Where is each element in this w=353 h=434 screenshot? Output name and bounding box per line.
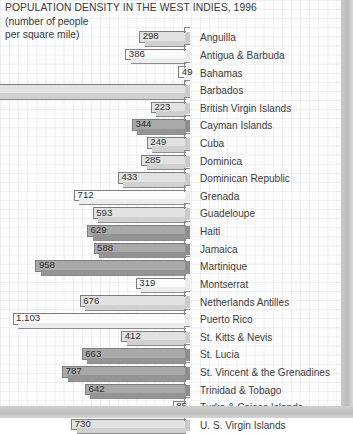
category-label: Dominican Republic	[200, 173, 290, 184]
chart-row: 629Haiti	[0, 222, 353, 240]
bar-value-label: 730	[75, 418, 91, 429]
category-label: Bahamas	[200, 68, 243, 79]
category-label: Cayman Islands	[200, 120, 272, 131]
bar-value-label: 1,103	[16, 312, 40, 323]
chart-row: 412St. Kitts & Nevis	[0, 328, 353, 346]
chart-row: Barbados	[0, 81, 353, 99]
chart-row: 663St. Lucia	[0, 345, 353, 363]
bar-value-label: 298	[143, 30, 159, 41]
chart-row: 249Cuba	[0, 134, 353, 152]
category-label: Barbados	[200, 85, 243, 96]
chart-row: 433Dominican Republic	[0, 169, 353, 187]
chart-row: 386Antigua & Barbuda	[0, 46, 353, 64]
chart-row: 787St. Vincent & the Grenadines	[0, 363, 353, 381]
bar-value-label: 49	[182, 66, 193, 77]
bar-value-label: 712	[78, 189, 94, 200]
category-label: St. Kitts & Nevis	[200, 332, 272, 343]
category-label: Netherlands Antilles	[200, 297, 289, 308]
category-label: U. S. Virgin Islands	[200, 420, 286, 431]
category-label: St. Lucia	[200, 349, 239, 360]
bar-depth-wedge	[77, 428, 186, 434]
category-label: St. Vincent & the Grenadines	[200, 367, 330, 378]
chart-title: POPULATION DENSITY IN THE WEST INDIES, 1…	[5, 2, 215, 13]
bar-value-label: 386	[129, 48, 145, 59]
chart-row: 223British Virgin Islands	[0, 98, 353, 116]
chart-row: 712Grenada	[0, 187, 353, 205]
bar-value-label: 787	[66, 365, 82, 376]
chart-row: 49Bahamas	[0, 63, 353, 81]
bar-value-label: 412	[125, 330, 141, 341]
category-label: Trinidad & Tobago	[200, 385, 281, 396]
chart-row: 298Anguilla	[0, 28, 353, 46]
category-label: Guadeloupe	[200, 208, 255, 219]
page-edge-bottom	[0, 406, 353, 418]
category-label: Puerto Rico	[200, 314, 253, 325]
category-label: British Virgin Islands	[200, 103, 291, 114]
page-edge-right	[341, 0, 353, 406]
chart-row: 593Guadeloupe	[0, 204, 353, 222]
category-label: Dominica	[200, 156, 242, 167]
bar-value-label: 319	[139, 277, 155, 288]
category-label: Jamaica	[200, 244, 238, 255]
chart-row: 958Martinique	[0, 257, 353, 275]
chart-row: 676Netherlands Antilles	[0, 292, 353, 310]
bar-value-label: 629	[91, 224, 107, 235]
chart-row: 730U. S. Virgin Islands	[0, 416, 353, 434]
chart-row: 642Trinidad & Tobago	[0, 380, 353, 398]
category-label: Martinique	[200, 261, 247, 272]
bar-value-label: 344	[135, 118, 151, 129]
bar-chart-plot-area: 298Anguilla386Antigua & Barbuda49Bahamas…	[0, 28, 353, 398]
category-label: Montserrat	[200, 279, 248, 290]
chart-row: 319Montserrat	[0, 275, 353, 293]
bar-value-label: 593	[96, 207, 112, 218]
bar-value-label: 223	[154, 101, 170, 112]
bar-value-label: 285	[145, 154, 161, 165]
category-label: Cuba	[200, 138, 224, 149]
bar-value-label: 663	[85, 348, 101, 359]
bar-value-label: 676	[83, 295, 99, 306]
category-label: Anguilla	[200, 32, 236, 43]
bar-value-label: 958	[39, 259, 55, 270]
bar-value-label: 642	[89, 383, 105, 394]
bar-value-label: 433	[121, 171, 137, 182]
chart-subtitle-line-1: (number of people	[5, 16, 215, 27]
bar-value-label: 249	[150, 136, 166, 147]
chart-row: 344Cayman Islands	[0, 116, 353, 134]
category-label: Antigua & Barbuda	[200, 50, 285, 61]
category-label: Grenada	[200, 191, 239, 202]
chart-row: 588Jamaica	[0, 239, 353, 257]
chart-row: 1,103Puerto Rico	[0, 310, 353, 328]
chart-row: 285Dominica	[0, 151, 353, 169]
category-label: Haiti	[200, 226, 220, 237]
bar-value-label: 588	[97, 242, 113, 253]
